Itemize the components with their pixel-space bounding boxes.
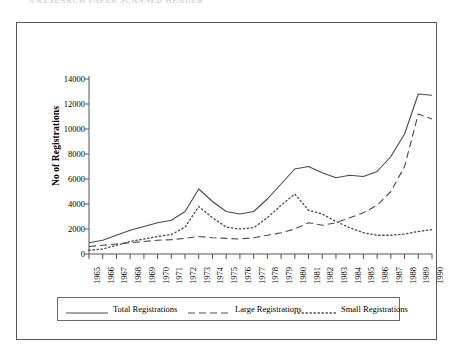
scan-header-text: A RESEARCH PAPER SCANNED HEADER	[28, 0, 428, 5]
legend-entry: Small Registrations	[294, 302, 408, 316]
legend-label: Small Registrations	[341, 304, 408, 314]
legend-swatch-dotted	[294, 304, 336, 314]
legend-swatch-dashed	[188, 304, 230, 314]
chart-plot-svg	[17, 23, 438, 341]
series-line-1	[89, 114, 432, 247]
legend-label: Total Registrations	[113, 304, 177, 314]
legend-entry: Large Registrations	[188, 302, 302, 316]
figure-frame: No of Registrations 02000400060008000100…	[16, 22, 437, 340]
legend-label: Large Registrations	[235, 304, 302, 314]
legend-entry: Total Registrations	[66, 302, 177, 316]
plot-area: No of Registrations 02000400060008000100…	[17, 23, 438, 341]
legend-swatch-solid	[66, 304, 108, 314]
series-line-0	[89, 94, 432, 243]
chart-page: A RESEARCH PAPER SCANNED HEADER No of Re…	[0, 0, 453, 356]
chart-legend: Total RegistrationsLarge RegistrationsSm…	[57, 297, 400, 321]
